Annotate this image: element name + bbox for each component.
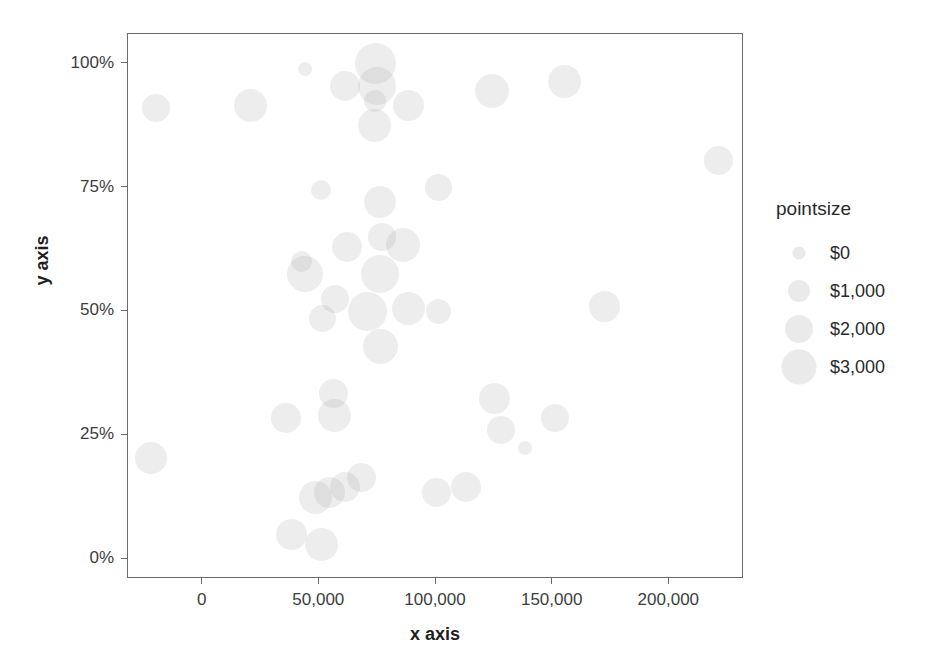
- legend-marker: [776, 348, 822, 386]
- legend-marker: [776, 234, 822, 272]
- legend-item[interactable]: $0: [776, 234, 926, 272]
- data-point: [393, 90, 424, 121]
- y-axis-tick-label: 100%: [40, 53, 114, 73]
- legend-entries: $0$1,000$2,000$3,000: [776, 234, 926, 386]
- data-point: [298, 62, 312, 76]
- data-point: [332, 232, 362, 262]
- bubble-chart: x axis y axis pointsize $0$1,000$2,000$3…: [0, 0, 936, 662]
- data-point: [135, 442, 167, 474]
- data-point: [548, 65, 581, 98]
- legend-bubble-icon: [793, 247, 806, 260]
- legend-item-label: $2,000: [830, 319, 885, 340]
- data-point: [386, 228, 420, 262]
- y-axis-tick-label: 50%: [40, 300, 114, 320]
- data-point: [704, 146, 733, 175]
- y-axis-tick: [121, 186, 127, 187]
- data-point: [311, 180, 331, 200]
- x-axis-tick: [435, 578, 436, 584]
- data-point: [475, 74, 509, 108]
- legend-item[interactable]: $1,000: [776, 272, 926, 310]
- y-axis-tick-label: 0%: [40, 548, 114, 568]
- data-point: [364, 186, 396, 218]
- data-point: [234, 89, 267, 122]
- data-point: [518, 441, 532, 455]
- data-point: [479, 383, 510, 414]
- x-axis-tick: [668, 578, 669, 584]
- data-point: [348, 292, 387, 331]
- legend-item-label: $0: [830, 243, 850, 264]
- data-point: [425, 174, 452, 201]
- x-axis-tick-label: 50,000: [292, 590, 344, 610]
- legend-bubble-icon: [788, 280, 810, 302]
- legend-marker: [776, 272, 822, 310]
- legend-item[interactable]: $2,000: [776, 310, 926, 348]
- x-axis-tick: [318, 578, 319, 584]
- data-point: [541, 404, 569, 432]
- data-point: [142, 94, 170, 122]
- legend-marker: [776, 310, 822, 348]
- x-axis-tick: [201, 578, 202, 584]
- plot-area: [127, 33, 743, 578]
- y-axis-tick: [121, 310, 127, 311]
- data-point: [305, 528, 338, 561]
- data-point: [358, 109, 391, 142]
- y-axis-tick: [121, 558, 127, 559]
- data-point: [426, 299, 451, 324]
- x-axis-tick-label: 200,000: [638, 590, 699, 610]
- x-axis-title: x axis: [127, 624, 743, 645]
- legend-bubble-icon: [785, 315, 813, 343]
- y-axis-tick-label: 75%: [40, 177, 114, 197]
- data-point: [487, 416, 515, 444]
- legend-item-label: $1,000: [830, 281, 885, 302]
- legend-item[interactable]: $3,000: [776, 348, 926, 386]
- data-point: [271, 403, 301, 433]
- data-point: [392, 292, 425, 325]
- legend: pointsize $0$1,000$2,000$3,000: [776, 198, 926, 386]
- data-point: [330, 71, 360, 101]
- legend-item-label: $3,000: [830, 357, 885, 378]
- data-point: [589, 291, 620, 322]
- y-axis-tick-label: 25%: [40, 424, 114, 444]
- legend-title: pointsize: [776, 198, 926, 220]
- data-point: [363, 329, 398, 364]
- x-axis-tick-label: 150,000: [521, 590, 582, 610]
- x-axis-tick-label: 100,000: [404, 590, 465, 610]
- y-axis-tick: [121, 62, 127, 63]
- data-point: [422, 478, 451, 507]
- x-axis-tick: [551, 578, 552, 584]
- data-point: [309, 305, 336, 332]
- data-point: [318, 399, 351, 432]
- data-point: [451, 472, 481, 502]
- y-axis-tick: [121, 434, 127, 435]
- data-point: [276, 519, 307, 550]
- legend-bubble-icon: [782, 350, 817, 385]
- data-point: [299, 481, 332, 514]
- x-axis-tick-label: 0: [197, 590, 206, 610]
- data-point: [361, 255, 399, 293]
